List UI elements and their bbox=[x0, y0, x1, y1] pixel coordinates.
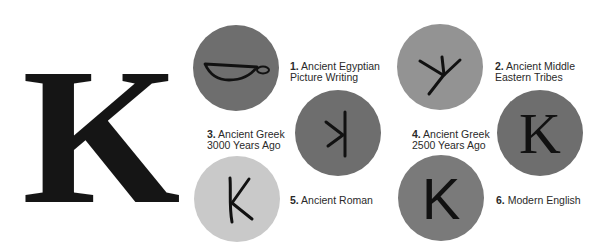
hand-branch-glyph-icon bbox=[397, 24, 483, 110]
stage-1-caption: 1. Ancient Egyptian Picture Writing bbox=[290, 61, 380, 83]
stage-4-circle: K bbox=[497, 90, 583, 176]
stage-label-line1: Ancient Roman bbox=[301, 194, 373, 206]
stage-2-caption: 2. Ancient Middle Eastern Tribes bbox=[495, 61, 575, 83]
stage-number: 5. bbox=[290, 194, 299, 206]
stage-number: 6. bbox=[496, 194, 505, 206]
stage-label-line2: 3000 Years Ago bbox=[207, 140, 285, 151]
stage-label-line2: Picture Writing bbox=[290, 72, 380, 83]
stage-5-circle bbox=[194, 156, 280, 242]
stage-label-line2: Eastern Tribes bbox=[495, 72, 575, 83]
handwritten-k-glyph-icon bbox=[194, 156, 280, 242]
stage-4-caption: 4. Ancient Greek 2500 Years Ago bbox=[412, 129, 490, 151]
serif-k-glyph-icon: K bbox=[519, 105, 561, 163]
stage-6-circle: K bbox=[398, 155, 484, 241]
large-letter-k: K bbox=[22, 38, 181, 234]
stage-6-caption: 6. Modern English bbox=[496, 195, 581, 206]
stage-2-circle bbox=[397, 24, 483, 110]
stage-3-caption: 3. Ancient Greek 3000 Years Ago bbox=[207, 129, 285, 151]
basket-hieroglyph-icon bbox=[193, 25, 279, 111]
stage-1-circle bbox=[193, 25, 279, 111]
sans-k-glyph-icon: K bbox=[422, 170, 461, 228]
stage-5-caption: 5. Ancient Roman bbox=[290, 195, 373, 206]
reversed-k-glyph-icon bbox=[295, 90, 381, 176]
stage-3-circle bbox=[295, 90, 381, 176]
stage-label-line1: Modern English bbox=[508, 194, 581, 206]
stage-label-line2: 2500 Years Ago bbox=[412, 140, 490, 151]
